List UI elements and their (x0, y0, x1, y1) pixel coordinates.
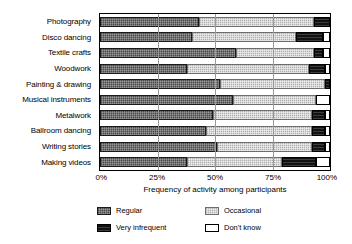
bar-segment-dont-know (325, 64, 330, 74)
legend-item: Don't know (205, 224, 297, 232)
x-axis-title: Frequency of activity among participants (99, 185, 331, 194)
bar-segment-dont-know (316, 157, 330, 167)
y-axis-label: Textile crafts (0, 45, 95, 61)
bar-segment-occasional (206, 126, 312, 136)
legend-item: Very infrequent (97, 224, 205, 232)
swatch-very-infrequent-icon (97, 224, 111, 232)
bar-segment-regular (100, 142, 217, 152)
bar-segment-very-infrequent (312, 126, 326, 136)
y-axis-label: Ballroom dancing (0, 123, 95, 139)
bar-row (100, 126, 330, 136)
y-axis-label: Metalwork (0, 108, 95, 124)
bar-segment-occasional (192, 32, 296, 42)
x-axis-tick-label: 75% (265, 173, 281, 182)
bar-segment-dont-know (325, 142, 330, 152)
bar-row (100, 79, 330, 89)
swatch-dont-know-icon (205, 224, 219, 232)
y-axis-label: Musical instruments (0, 92, 95, 108)
legend-item: Occasional (205, 207, 297, 215)
bar-segment-regular (100, 157, 187, 167)
bar-segment-very-infrequent (314, 48, 323, 58)
legend-label: Occasional (224, 207, 261, 215)
bar-segment-dont-know (323, 48, 330, 58)
x-axis-tick-label: 0% (96, 173, 108, 182)
bar-segment-occasional (213, 110, 312, 120)
bar-row (100, 142, 330, 152)
bar-row (100, 17, 330, 27)
y-axis-label: Woodwork (0, 61, 95, 77)
bar-segment-very-infrequent (296, 32, 324, 42)
bar-row (100, 64, 330, 74)
bar-row (100, 48, 330, 58)
bar-segment-regular (100, 95, 233, 105)
bar-segment-very-infrequent (325, 79, 330, 89)
bar-segment-dont-know (316, 95, 330, 105)
y-axis-label: Disco dancing (0, 30, 95, 46)
bar-segment-very-infrequent (309, 64, 325, 74)
bar-segment-occasional (187, 157, 281, 167)
x-axis-tick-label: 100% (317, 173, 337, 182)
y-axis-label: Photography (0, 14, 95, 30)
bar-segment-regular (100, 64, 187, 74)
bar-segment-very-infrequent (282, 157, 317, 167)
bar-segment-dont-know (325, 126, 330, 136)
bar-segment-dont-know (325, 110, 330, 120)
bar-segment-regular (100, 126, 206, 136)
bar-segment-very-infrequent (312, 110, 326, 120)
plot-area (99, 13, 331, 171)
bar-segment-regular (100, 110, 213, 120)
bar-segment-very-infrequent (312, 142, 326, 152)
bar-segment-dont-know (323, 32, 330, 42)
x-axis-tick-label: 50% (207, 173, 223, 182)
legend-label: Very infrequent (116, 224, 166, 232)
y-axis-label: Writing stories (0, 139, 95, 155)
x-axis-tick-label: 25% (149, 173, 165, 182)
bars-container (100, 14, 330, 170)
y-axis-label: Painting & drawing (0, 76, 95, 92)
legend-label: Don't know (224, 224, 261, 232)
bar-row (100, 110, 330, 120)
swatch-occasional-icon (205, 207, 219, 215)
bar-segment-occasional (217, 142, 311, 152)
bar-row (100, 95, 330, 105)
bar-segment-occasional (220, 79, 326, 89)
bar-segment-occasional (199, 17, 314, 27)
y-axis-category-labels: PhotographyDisco dancingTextile craftsWo… (0, 14, 95, 170)
bar-segment-regular (100, 48, 236, 58)
bar-segment-occasional (187, 64, 309, 74)
bar-row (100, 157, 330, 167)
swatch-regular-icon (97, 207, 111, 215)
chart-legend: RegularOccasionalVery infrequentDon't kn… (97, 202, 297, 236)
bar-segment-regular (100, 17, 199, 27)
y-axis-label: Making videos (0, 154, 95, 170)
legend-label: Regular (116, 207, 142, 215)
bar-segment-occasional (233, 95, 316, 105)
x-axis-tick-labels: 0%25%50%75%100% (99, 173, 331, 184)
bar-segment-occasional (236, 48, 314, 58)
bar-segment-regular (100, 79, 220, 89)
stacked-bar-chart: PhotographyDisco dancingTextile craftsWo… (0, 0, 352, 244)
bar-row (100, 32, 330, 42)
legend-item: Regular (97, 207, 205, 215)
bar-segment-very-infrequent (314, 17, 330, 27)
bar-segment-regular (100, 32, 192, 42)
